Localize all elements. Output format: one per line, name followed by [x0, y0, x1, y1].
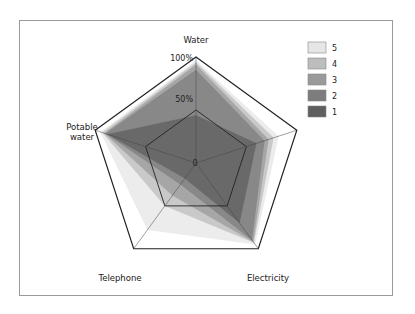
legend-label-3: 3 — [332, 76, 337, 85]
tick-50: 50% — [175, 95, 193, 104]
legend-label-1: 1 — [332, 108, 337, 117]
axis-label-potable-water-1: Potable — [66, 122, 98, 132]
series-polygons — [100, 60, 278, 244]
legend-swatch-1 — [308, 106, 326, 117]
axis-label-telephone: Telephone — [97, 273, 141, 283]
legend-label-2: 2 — [332, 92, 337, 101]
legend-label-4: 4 — [332, 60, 337, 69]
legend: 54321 — [308, 32, 388, 118]
legend-label-5: 5 — [332, 44, 337, 53]
axis-label-electricity: Electricity — [247, 273, 289, 283]
tick-100: 100% — [170, 54, 193, 63]
legend-swatch-5 — [308, 42, 326, 53]
axis-label-potable-water-2: water — [70, 132, 95, 142]
legend-swatch-4 — [308, 58, 326, 69]
tick-0: 0 — [192, 159, 197, 168]
axis-label-water: Water — [183, 35, 209, 45]
radar-chart: Water Sewerage Electricity Telephone Pot… — [0, 0, 415, 314]
legend-swatch-2 — [308, 90, 326, 101]
legend-swatch-3 — [308, 74, 326, 85]
